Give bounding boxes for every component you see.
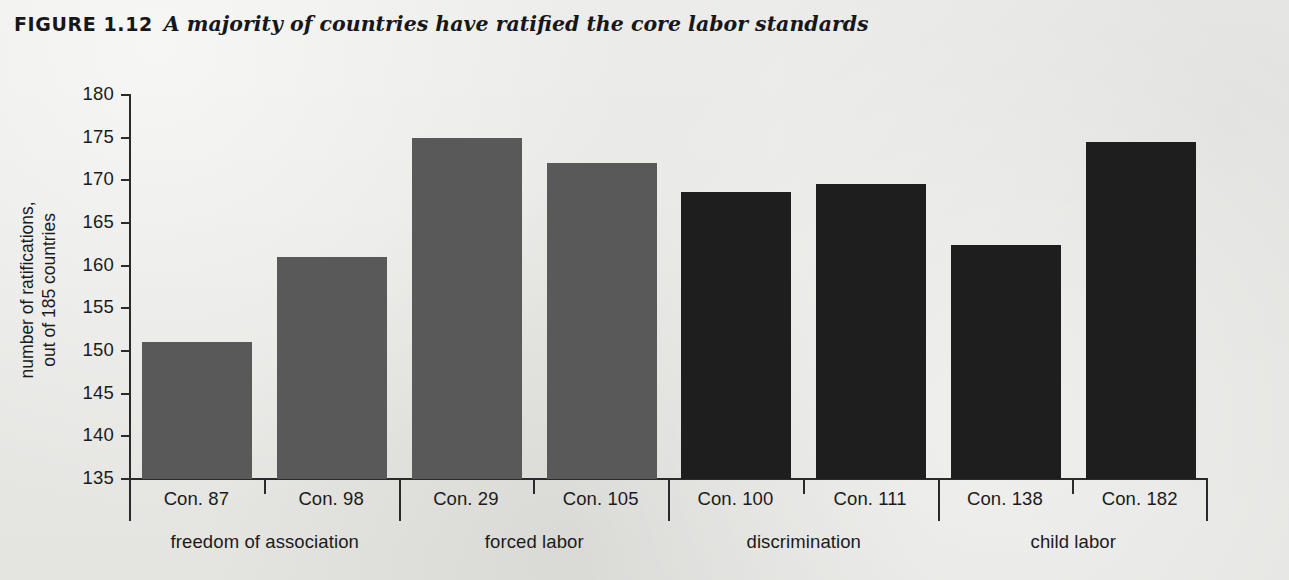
y-axis-line — [129, 94, 131, 480]
bar[interactable] — [1086, 142, 1196, 479]
group-label: discrimination — [669, 531, 939, 553]
y-tick-label: 140 — [68, 424, 114, 446]
bar-label: Con. 98 — [264, 488, 399, 510]
bar-separator-tick — [264, 479, 266, 494]
bar-label: Con. 87 — [129, 488, 264, 510]
bar-label: Con. 29 — [399, 488, 534, 510]
y-axis-title: number of ratifications, out of 185 coun… — [17, 165, 61, 415]
y-axis-title-line-1: number of ratifications, — [17, 165, 39, 415]
bar-label: Con. 100 — [668, 488, 803, 510]
bar[interactable] — [547, 163, 657, 479]
y-tick-label: 145 — [68, 382, 114, 404]
group-label: forced labor — [400, 531, 670, 553]
group-separator-tick — [668, 479, 670, 521]
bar[interactable] — [951, 245, 1061, 479]
group-label: freedom of association — [130, 531, 400, 553]
y-tick-label: 155 — [68, 296, 114, 318]
bar[interactable] — [681, 192, 791, 479]
y-tick-label: 135 — [68, 467, 114, 489]
y-tick-label: 175 — [68, 126, 114, 148]
y-axis-title-line-2: out of 185 countries — [39, 165, 61, 415]
bar-separator-tick — [803, 479, 805, 494]
y-tick-label: 165 — [68, 211, 114, 233]
y-tick-label: 170 — [68, 168, 114, 190]
bar-label: Con. 138 — [938, 488, 1073, 510]
bar-separator-tick — [533, 479, 535, 494]
group-label: child labor — [939, 531, 1209, 553]
bar[interactable] — [277, 257, 387, 479]
bar-chart: number of ratifications, out of 185 coun… — [0, 0, 1289, 580]
bar[interactable] — [412, 138, 522, 479]
bar[interactable] — [816, 184, 926, 479]
bar-separator-tick — [1072, 479, 1074, 494]
y-tick-label: 150 — [68, 339, 114, 361]
bar-label: Con. 111 — [803, 488, 938, 510]
bar-label: Con. 182 — [1072, 488, 1207, 510]
x-axis-label-band: Con. 87Con. 98Con. 29Con. 105Con. 100Con… — [129, 479, 1208, 521]
group-separator-tick — [938, 479, 940, 521]
y-tick-label: 160 — [68, 254, 114, 276]
bar[interactable] — [142, 342, 252, 479]
bar-label: Con. 105 — [533, 488, 668, 510]
group-separator-tick — [399, 479, 401, 521]
y-tick-label: 180 — [68, 83, 114, 105]
